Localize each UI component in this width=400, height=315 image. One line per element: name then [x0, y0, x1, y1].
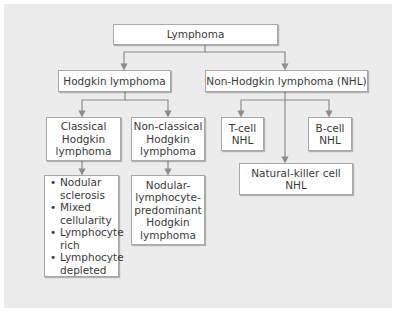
list-item-line: Lymphocyte — [60, 226, 123, 239]
node-label-line: Non-classical — [134, 120, 203, 133]
node-nk-cell-nhl: Natural-killer cell NHL — [239, 163, 353, 195]
list-item-line: Lymphocyte — [60, 251, 123, 264]
node-label-line: Hodgkin — [146, 133, 189, 146]
node-label-line: lymphoma — [140, 145, 196, 158]
list-item: Lymphocyte rich — [50, 226, 123, 251]
node-label-line: NHL — [232, 134, 254, 147]
node-label-line: Nodular- — [146, 179, 190, 192]
node-label-line: predominant — [134, 204, 201, 217]
list-item: Lymphocyte depleted — [50, 251, 123, 276]
list-item-line: Mixed — [60, 201, 123, 214]
node-lymphoma: Lymphoma — [113, 24, 278, 45]
node-non-hodgkin-lymphoma: Non-Hodgkin lymphoma (NHL) — [205, 70, 368, 92]
node-label-line: B-cell — [315, 122, 344, 135]
node-nodular-lymphocyte-predominant: Nodular- lymphocyte- predominant Hodgkin… — [131, 175, 205, 245]
node-nonclassical-hodgkin: Non-classical Hodgkin lymphoma — [131, 117, 205, 161]
list-item: Nodular sclerosis — [50, 176, 123, 201]
node-label-line: Natural-killer cell — [251, 167, 341, 180]
node-label-line: lymphoma — [140, 229, 196, 242]
list-item: Mixed cellularity — [50, 201, 123, 226]
node-label: Hodgkin lymphoma — [63, 75, 165, 88]
node-label-line: NHL — [319, 134, 341, 147]
node-classical-hodgkin: Classical Hodgkin lymphoma — [46, 117, 121, 161]
node-tcell-nhl: T-cell NHL — [221, 117, 264, 151]
node-label: Lymphoma — [167, 28, 225, 41]
list-item-line: rich — [60, 239, 123, 252]
node-label-line: Hodgkin — [62, 133, 105, 146]
node-label-line: lymphocyte- — [135, 191, 200, 204]
node-label-line: Classical — [61, 120, 107, 133]
node-label-line: T-cell — [229, 122, 256, 135]
node-classical-subtypes: Nodular sclerosis Mixed cellularity Lymp… — [44, 175, 119, 277]
node-label-line: NHL — [285, 179, 307, 192]
list-item-line: Nodular — [60, 176, 123, 189]
node-label-line: Hodgkin — [146, 216, 189, 229]
list-item-line: sclerosis — [60, 189, 123, 202]
list-item-line: depleted — [60, 264, 123, 277]
node-label: Non-Hodgkin lymphoma (NHL) — [206, 75, 366, 88]
node-hodgkin-lymphoma: Hodgkin lymphoma — [58, 70, 171, 92]
list-item-line: cellularity — [60, 214, 123, 227]
node-label-line: lymphoma — [56, 145, 112, 158]
node-bcell-nhl: B-cell NHL — [308, 117, 352, 151]
subtype-list: Nodular sclerosis Mixed cellularity Lymp… — [40, 176, 123, 276]
